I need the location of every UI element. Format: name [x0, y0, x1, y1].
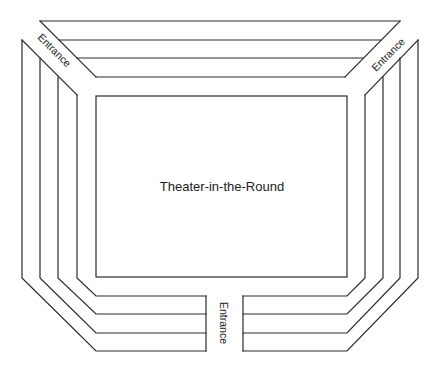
seating-section-right: [243, 40, 418, 351]
stage-label: Theater-in-the-Round: [160, 179, 284, 194]
seating-section-left: [22, 40, 206, 351]
theater-diagram: Theater-in-the-Round Entrance Entrance E…: [0, 0, 446, 372]
row-line: [243, 58, 400, 333]
seating-section-top: [40, 21, 400, 77]
entrance-label-top-right: Entrance: [369, 35, 407, 73]
row-line: [22, 40, 206, 351]
row-line: [40, 58, 206, 333]
row-line: [58, 77, 206, 314]
row-line: [243, 77, 383, 314]
row-line: [243, 40, 418, 351]
entrance-label-bottom: Entrance: [218, 302, 230, 344]
entrance-label-top-left: Entrance: [36, 31, 74, 69]
